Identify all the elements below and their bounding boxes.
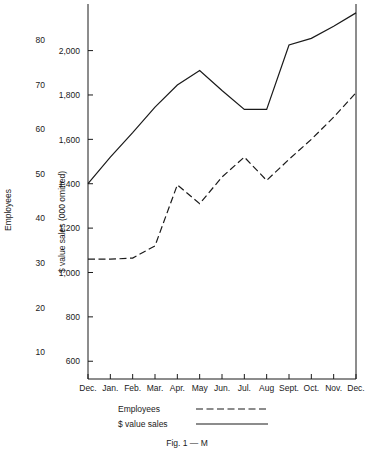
y-tick-label: 800 — [66, 312, 80, 322]
x-tick-label: Jul. — [238, 383, 251, 393]
x-tick-label: Dec. — [79, 383, 96, 393]
line-chart-figure: 6008001,0001,2001,4001,6001,8002,000 102… — [0, 0, 375, 450]
y-tick-label: 1,800 — [59, 90, 81, 100]
x-tick-label: Aug — [259, 383, 274, 393]
y-axis-title: $ value sales (000 omitted) — [57, 171, 67, 273]
secondary-y-axis-title: Employees — [3, 189, 13, 231]
x-tick-label: Oct. — [304, 383, 320, 393]
x-tick-label: Nov. — [325, 383, 342, 393]
x-tick-label: Jan. — [102, 383, 118, 393]
figure-caption: Fig. 1 — M — [166, 438, 208, 448]
y-tick-label: 600 — [66, 356, 80, 366]
x-tick-label: Mar. — [147, 383, 164, 393]
series-line-value-sales — [88, 13, 356, 184]
x-tick-label: Sept. — [279, 383, 299, 393]
secondary-y-axis-tick-labels: 1020304050607080 — [36, 35, 46, 358]
x-tick-label: Jun. — [214, 383, 230, 393]
secondary-y-tick-label: 40 — [36, 213, 46, 223]
secondary-y-tick-label: 50 — [36, 169, 46, 179]
y-tick-label: 1,600 — [59, 135, 81, 145]
secondary-y-tick-label: 20 — [36, 303, 46, 313]
x-axis-ticks — [88, 374, 356, 379]
chart-legend: Employees$ value sales — [118, 404, 268, 429]
legend-label: Employees — [118, 404, 160, 414]
x-tick-label: May — [192, 383, 209, 393]
secondary-y-tick-label: 70 — [36, 80, 46, 90]
plot-area — [88, 4, 356, 379]
secondary-y-tick-label: 80 — [36, 35, 46, 45]
legend-label: $ value sales — [118, 419, 168, 429]
secondary-y-tick-label: 60 — [36, 124, 46, 134]
y-axis-ticks — [88, 51, 93, 362]
y-tick-label: 2,000 — [59, 46, 81, 56]
x-tick-label: Apr. — [170, 383, 185, 393]
secondary-y-tick-label: 10 — [36, 347, 46, 357]
x-tick-label: Feb. — [124, 383, 141, 393]
series-line-employees — [88, 93, 356, 259]
secondary-y-tick-label: 30 — [36, 258, 46, 268]
x-tick-label: Dec. — [347, 383, 364, 393]
x-axis-tick-labels: Dec.Jan.Feb.Mar.Apr.MayJun.Jul.AugSept.O… — [79, 383, 364, 393]
